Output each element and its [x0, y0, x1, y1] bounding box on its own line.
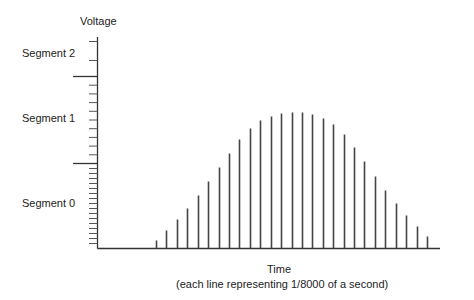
x-axis-label: Time [267, 263, 291, 275]
segment-0-label: Segment 0 [22, 197, 75, 209]
waveform-chart [0, 0, 474, 300]
sample-lines [157, 113, 428, 249]
x-axis-note: (each line representing 1/8000 of a seco… [176, 278, 388, 290]
y-axis-ticks [89, 42, 98, 244]
segment-2-label: Segment 2 [22, 47, 75, 59]
y-axis-label: Voltage [80, 15, 117, 27]
segment-1-label: Segment 1 [22, 112, 75, 124]
